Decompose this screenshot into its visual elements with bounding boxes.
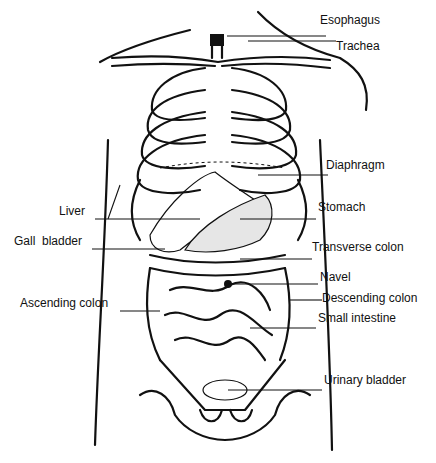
label-gall-bladder: Gall bladder [14,234,82,248]
label-urinary-bladder: Urinary bladder [324,373,406,387]
label-stomach: Stomach [318,200,365,214]
label-transverse-colon: Transverse colon [312,240,404,254]
label-ascending-colon: Ascending colon [20,296,108,310]
label-navel: Navel [320,270,351,284]
label-diaphragm: Diaphragm [326,158,385,172]
descending-colon [280,268,290,360]
label-esophagus: Esophagus [320,13,380,27]
stomach-outline [185,195,272,252]
label-small-intestine: Small intestine [318,311,396,325]
label-trachea: Trachea [336,39,380,53]
ascending-colon [147,268,160,360]
ribcage-left [132,68,205,240]
label-liver: Liver [59,204,85,218]
trachea-drawing [210,34,224,58]
leader-lines [92,36,336,390]
torso-anatomy-drawing [0,0,436,463]
label-descending-colon: Descending colon [322,291,417,305]
small-intestine-loops [165,282,272,360]
